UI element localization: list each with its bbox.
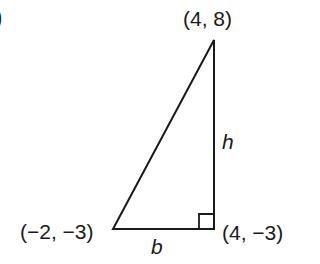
right-angle-marker <box>199 214 214 229</box>
side-label-height: h <box>222 131 234 152</box>
side-label-base: b <box>151 236 163 257</box>
vertex-label-bottom-left: (−2, −3) <box>20 221 94 242</box>
vertex-label-top: (4, 8) <box>183 8 232 29</box>
triangle <box>113 40 214 229</box>
vertex-label-bottom-right: (4, −3) <box>222 222 283 243</box>
